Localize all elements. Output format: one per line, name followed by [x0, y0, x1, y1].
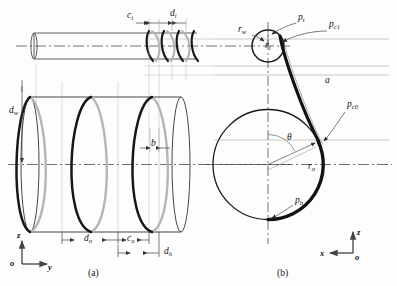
label-a: a	[325, 76, 330, 86]
axis-label-y-a: y	[48, 262, 52, 272]
label-d-i: di	[170, 9, 177, 19]
axis-label-o-a: o	[10, 258, 14, 268]
core-wound-arc	[268, 141, 323, 220]
label-r-i: ri	[265, 41, 271, 51]
figure-drawing	[0, 0, 397, 286]
axis-label-z-a: z	[17, 230, 20, 240]
dim-d-h	[118, 232, 159, 257]
projection-lines	[36, 33, 214, 232]
label-p-b: pb	[295, 196, 303, 206]
leader-p-c0	[324, 112, 345, 141]
label-p-t: pt	[298, 13, 305, 23]
caption-panel-a: (a)	[88, 268, 99, 278]
label-c-o: co	[127, 234, 135, 244]
label-c-i: ci	[127, 11, 133, 21]
label-d-w: dw	[9, 106, 18, 116]
axis-label-x-b: x	[320, 248, 324, 258]
axis-label-z-b: z	[357, 227, 360, 237]
figure-container: ci di dw b do co dh z o y (a) rw ri pt p…	[0, 0, 397, 286]
label-d-h: dh	[164, 247, 172, 257]
caption-panel-b: (b)	[277, 268, 288, 278]
axis-label-o-b: o	[355, 252, 359, 262]
label-b: b	[151, 139, 156, 149]
panel-b-reference-lines	[214, 39, 389, 140]
axes-panel-b	[330, 232, 353, 253]
axes-panel-a	[22, 241, 47, 264]
label-r-o: ro	[308, 162, 315, 172]
label-r-w: rw	[238, 25, 246, 35]
label-theta: θ	[287, 133, 292, 143]
label-d-o: do	[84, 234, 92, 244]
label-p-c1: pc1	[329, 20, 340, 30]
dim-d-i	[160, 19, 186, 31]
wire-tangent-guide	[285, 46, 323, 145]
label-p-c0: pc0	[347, 100, 358, 110]
leader-p-c1	[283, 31, 327, 42]
